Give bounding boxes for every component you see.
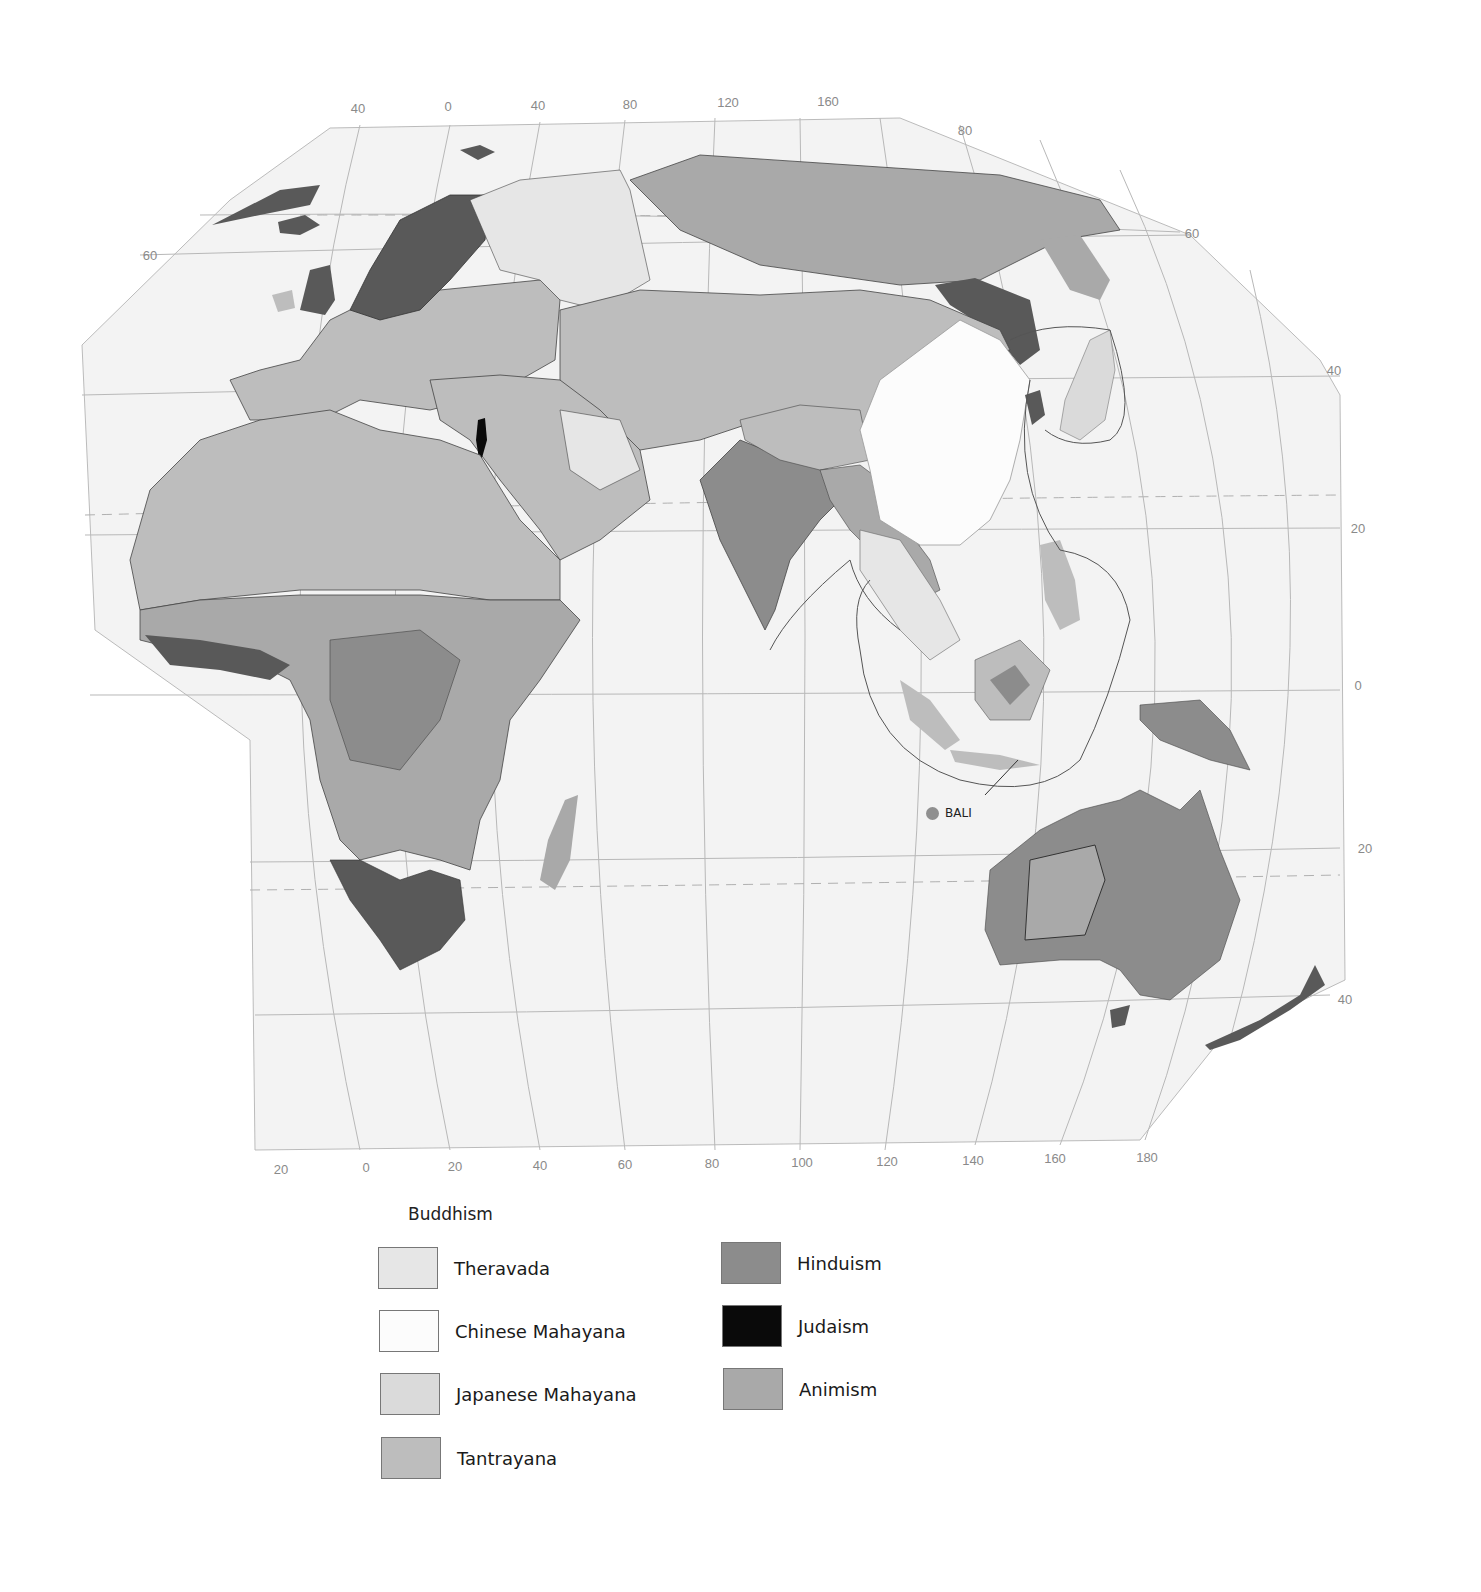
legend-item-chinese-mahayana: Chinese Mahayana xyxy=(379,1310,626,1352)
legend-label: Japanese Mahayana xyxy=(456,1384,637,1405)
tick-bottom-0: 0 xyxy=(362,1160,369,1175)
legend-item-judaism: Judaism xyxy=(722,1305,869,1347)
legend-item-animism: Animism xyxy=(723,1368,877,1410)
legend-title: Buddhism xyxy=(408,1204,493,1224)
tick-right-60n: 60 xyxy=(1185,226,1199,241)
tick-left-60n: 60 xyxy=(143,248,157,263)
tick-right-20s: 20 xyxy=(1358,841,1372,856)
tick-bottom-20w: 20 xyxy=(274,1162,288,1177)
hinduism-swatch xyxy=(721,1242,781,1284)
tantrayana-swatch xyxy=(381,1437,441,1479)
tick-bottom-140e: 140 xyxy=(962,1153,984,1168)
tick-top-120e: 120 xyxy=(717,95,739,110)
legend-label: Animism xyxy=(799,1379,877,1400)
legend-label: Tantrayana xyxy=(457,1448,557,1469)
tick-right-20n: 20 xyxy=(1351,521,1365,536)
tick-bottom-100e: 100 xyxy=(791,1155,813,1170)
tick-top-0: 0 xyxy=(444,99,451,114)
tick-top-160e: 160 xyxy=(817,94,839,109)
tick-bottom-160e: 160 xyxy=(1044,1151,1066,1166)
legend-label: Judaism xyxy=(798,1316,869,1337)
tick-bottom-20e: 20 xyxy=(448,1159,462,1174)
legend-item-theravada: Theravada xyxy=(378,1247,550,1289)
chinese-mahayana-swatch xyxy=(379,1310,439,1352)
tick-top-40w: 40 xyxy=(351,101,365,116)
legend-item-japanese-mahayana: Japanese Mahayana xyxy=(380,1373,637,1415)
japanese-mahayana-swatch xyxy=(380,1373,440,1415)
bali-label: BALI xyxy=(945,806,972,820)
tick-top-80e: 80 xyxy=(623,97,637,112)
tick-bottom-60e: 60 xyxy=(618,1157,632,1172)
legend-item-hinduism: Hinduism xyxy=(721,1242,882,1284)
tick-bottom-80e: 80 xyxy=(705,1156,719,1171)
legend-label: Chinese Mahayana xyxy=(455,1321,626,1342)
animism-swatch xyxy=(723,1368,783,1410)
tick-bottom-40e: 40 xyxy=(533,1158,547,1173)
bali-dot-icon xyxy=(926,807,939,820)
bali-annotation: BALI xyxy=(926,806,972,820)
tick-top-40e: 40 xyxy=(531,98,545,113)
theravada-swatch xyxy=(378,1247,438,1289)
judaism-swatch xyxy=(722,1305,782,1347)
tick-right-40n: 40 xyxy=(1327,363,1341,378)
tick-right-40s: 40 xyxy=(1338,992,1352,1007)
legend: Buddhism Theravada Chinese Mahayana Japa… xyxy=(378,1200,938,1500)
tick-right-0: 0 xyxy=(1354,678,1361,693)
legend-label: Hinduism xyxy=(797,1253,882,1274)
legend-label: Theravada xyxy=(454,1258,550,1279)
tick-bottom-120e: 120 xyxy=(876,1154,898,1169)
legend-item-tantrayana: Tantrayana xyxy=(381,1437,557,1479)
tick-bottom-180: 180 xyxy=(1136,1150,1158,1165)
tick-right-80n: 80 xyxy=(958,123,972,138)
